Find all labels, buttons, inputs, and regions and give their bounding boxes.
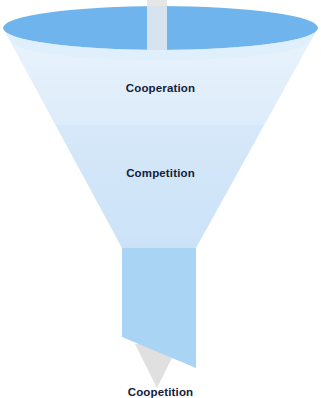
- stage-label-cooperation: Cooperation: [126, 82, 195, 94]
- funnel-graphic: Cooperation Competition Coopetition: [0, 0, 321, 398]
- arrow-shaft-overlay: [147, 6, 167, 50]
- funnel-diagram: Cooperation Competition Coopetition: [0, 0, 321, 398]
- outcome-label-coopetition: Coopetition: [128, 386, 194, 398]
- stage-label-competition: Competition: [126, 167, 195, 179]
